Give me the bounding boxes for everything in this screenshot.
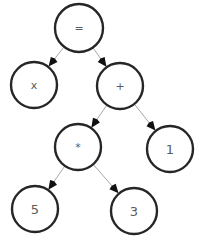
node-label: x (31, 79, 38, 92)
tree-node-three[interactable]: 3 (111, 188, 157, 234)
node-label: 3 (130, 204, 138, 219)
edge-plus-to-one (135, 104, 156, 130)
node-label: 5 (31, 202, 39, 217)
nodes-layer: =x+*153 (11, 4, 193, 234)
edges-layer (48, 47, 155, 193)
edge-times-to-three (93, 165, 118, 194)
edge-times-to-five (48, 166, 64, 189)
tree-node-plus[interactable]: + (97, 63, 143, 109)
edge-line (54, 47, 64, 59)
edge-arrowhead-icon (98, 57, 107, 67)
node-label: * (75, 141, 81, 154)
edge-arrowhead-icon (48, 180, 57, 190)
tree-node-five[interactable]: 5 (12, 186, 58, 232)
tree-canvas: =x+*153 (0, 0, 201, 240)
edge-plus-to-times (91, 105, 106, 127)
expression-tree-diagram: =x+*153 (0, 0, 201, 240)
node-label: = (74, 22, 83, 35)
edge-eq-to-plus (93, 48, 106, 67)
tree-node-one[interactable]: 1 (147, 126, 193, 172)
edge-line (96, 105, 106, 120)
edge-arrowhead-icon (49, 57, 58, 67)
tree-node-times[interactable]: * (55, 124, 101, 170)
tree-node-eq[interactable]: = (55, 4, 103, 52)
edge-line (93, 165, 112, 187)
edge-line (93, 48, 101, 59)
edge-eq-to-x (49, 47, 64, 66)
edge-line (54, 166, 65, 182)
tree-node-x[interactable]: x (11, 62, 57, 108)
node-label: + (115, 80, 124, 93)
edge-arrowhead-icon (147, 121, 156, 131)
edge-arrowhead-icon (91, 118, 100, 128)
node-label: 1 (166, 142, 174, 157)
edge-line (135, 104, 150, 123)
